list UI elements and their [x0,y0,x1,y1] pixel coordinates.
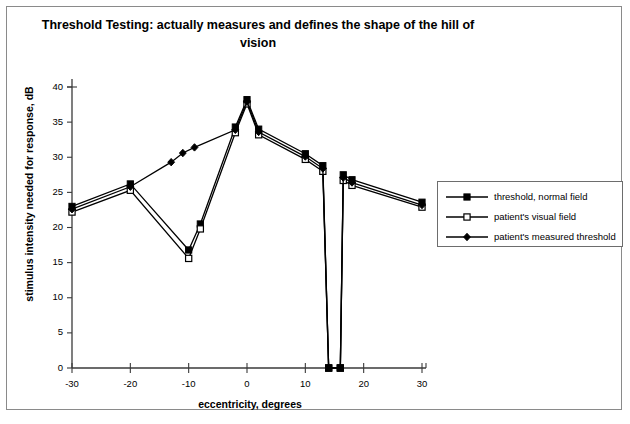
series-line-2 [72,102,422,368]
x-tick-label: -10 [182,378,196,389]
x-tick-label: 10 [300,378,311,389]
y-tick-label: 0 [58,362,63,373]
series-2-point-11 [337,365,343,371]
legend-marker-filled-square [444,188,490,206]
legend-symbol [464,194,470,200]
chart-legend: threshold, normal fieldpatient's visual … [437,181,623,247]
x-tick-label: 30 [417,378,428,389]
legend-label: threshold, normal field [494,191,587,202]
y-tick-label: 10 [52,291,63,302]
x-tick-label: 20 [358,378,369,389]
legend-symbol [464,214,470,220]
legend-label: patient's visual field [494,211,576,222]
legend-marker-filled-diamond [444,228,490,246]
series-line-0 [72,100,422,368]
y-tick-label: 40 [52,81,63,92]
series-1-point-3 [197,226,203,232]
series-1-point-2 [186,255,192,261]
series-2 [69,98,426,371]
series-2-point-10 [326,365,332,371]
series-line-1 [72,104,422,368]
legend-symbol [464,233,471,240]
y-tick-label: 5 [58,326,63,337]
x-tick-label: 0 [244,378,249,389]
y-tick-label: 30 [52,151,63,162]
legend-item-2[interactable]: patient's measured threshold [444,228,622,248]
legend-marker-open-square [444,208,490,226]
y-tick-label: 15 [52,256,63,267]
y-tick-label: 35 [52,116,63,127]
series-2-point-4 [191,144,198,151]
y-tick-label: 25 [52,186,63,197]
x-tick-label: -20 [123,378,137,389]
x-tick-label: -30 [65,378,79,389]
series-0 [69,97,425,372]
series-1 [69,101,425,371]
legend-item-1[interactable]: patient's visual field [444,208,622,228]
legend-label: patient's measured threshold [494,231,616,242]
legend-item-0[interactable]: threshold, normal field [444,188,622,208]
y-tick-label: 20 [52,221,63,232]
